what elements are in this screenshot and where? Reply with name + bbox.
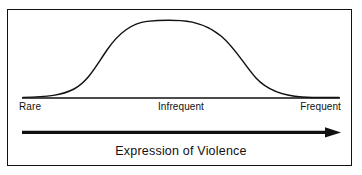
direction-arrow-head-icon [325,127,341,137]
bell-curve-path [23,20,339,97]
figure-caption: Expression of Violence [0,144,362,159]
axis-label-frequent: Frequent [300,101,341,112]
bell-curve-figure: Rare Infrequent Frequent Expression of V… [0,0,362,175]
